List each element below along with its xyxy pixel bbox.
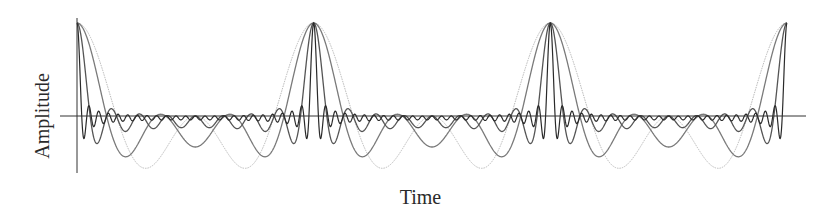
series-line-24-harmonics <box>77 23 787 139</box>
pulse-train-chart <box>0 0 833 216</box>
series-line-3-harmonics <box>77 23 787 157</box>
y-axis-label: Amplitude <box>31 73 54 159</box>
series-group <box>77 23 787 168</box>
series-line-8-harmonics <box>77 23 787 144</box>
x-axis-label: Time <box>0 186 833 209</box>
